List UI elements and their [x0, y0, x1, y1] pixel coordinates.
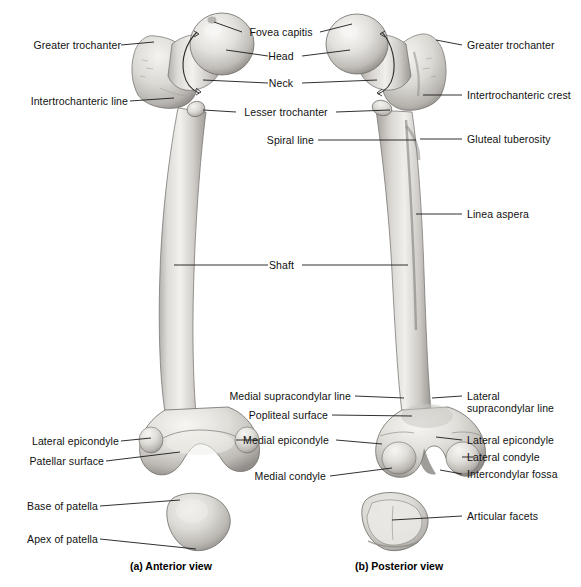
posterior-medial-condyle	[382, 442, 416, 474]
label-intertrochanteric-crest: Intertrochanteric crest	[467, 89, 571, 101]
leader-lateral-supracondylar-line	[432, 396, 462, 398]
label-medial-condyle: Medial condyle	[244, 470, 326, 482]
label-gluteal-tuberosity: Gluteal tuberosity	[467, 133, 551, 145]
posterior-head-highlight	[340, 25, 358, 37]
anterior-femoral-head	[190, 13, 254, 75]
leader-lesser-trochanter-left	[203, 110, 236, 112]
label-neck: Neck	[264, 77, 298, 89]
posterior-shaft	[376, 110, 431, 412]
label-articular-facets: Articular facets	[467, 510, 538, 522]
leader-medial-supracondylar-line	[355, 396, 404, 398]
label-lesser-trochanter: Lesser trochanter	[239, 106, 333, 118]
caption-posterior-view: (b) Posterior view	[355, 560, 443, 572]
anterior-shaft	[159, 108, 206, 414]
posterior-femoral-head	[326, 14, 388, 74]
leader-medial-epicondyle-right	[336, 440, 382, 444]
label-intercondylar-fossa: Intercondylar fossa	[467, 468, 558, 480]
patellar-surface-highlight	[166, 431, 234, 455]
label-lateral-epicondyle-posterior: Lateral epicondyle	[467, 434, 554, 446]
leader-neck-right	[302, 80, 377, 83]
label-linea-aspera: Linea aspera	[467, 208, 529, 220]
label-popliteal-surface: Popliteal surface	[240, 409, 328, 421]
anterior-head-highlight	[204, 24, 222, 36]
caption-anterior-view: (a) Anterior view	[130, 560, 212, 572]
label-fovea-capitis: Fovea capitis	[245, 26, 317, 38]
label-lateral-condyle: Lateral condyle	[467, 451, 540, 463]
femur-anatomy-figure: Greater trochanter Intertrochanteric lin…	[0, 0, 581, 587]
label-greater-trochanter-anterior: Greater trochanter	[0, 39, 121, 51]
leader-medial-condyle	[330, 468, 392, 476]
label-lateral-supracondylar-line: Lateral supracondylar line	[467, 390, 559, 414]
posterior-femur	[326, 14, 486, 551]
anterior-lateral-epicondyle	[139, 427, 163, 453]
label-head: Head	[263, 50, 299, 62]
anterior-femur	[132, 13, 260, 551]
anterior-patella-highlight	[176, 499, 208, 523]
label-lateral-epicondyle-anterior: Lateral epicondyle	[0, 435, 119, 447]
label-apex-of-patella: Apex of patella	[0, 533, 98, 545]
label-shaft: Shaft	[265, 259, 298, 271]
label-base-of-patella: Base of patella	[0, 500, 98, 512]
label-medial-supracondylar-line: Medial supracondylar line	[210, 390, 351, 402]
label-medial-epicondyle: Medial epicondyle	[239, 434, 333, 446]
label-greater-trochanter-posterior: Greater trochanter	[467, 39, 555, 51]
label-spiral-line: Spiral line	[240, 134, 314, 146]
label-intertrochanteric-line: Intertrochanteric line	[0, 95, 128, 107]
label-patellar-surface: Patellar surface	[0, 455, 104, 467]
